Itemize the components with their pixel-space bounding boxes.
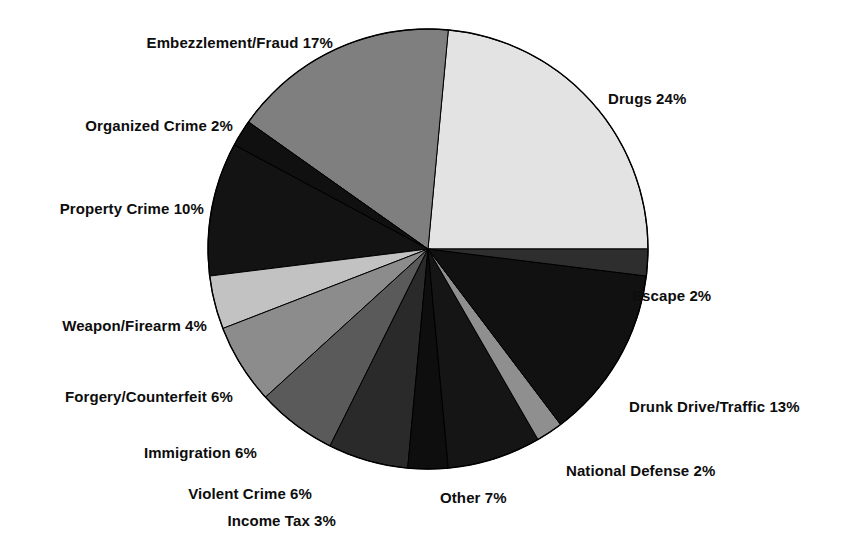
pie-label-weapon-firearm-4: Weapon/Firearm 4% <box>62 318 207 333</box>
pie-label-property-crime-10: Property Crime 10% <box>60 201 204 216</box>
pie-label-income-tax-3: Income Tax 3% <box>227 513 336 528</box>
pie-label-organized-crime-2: Organized Crime 2% <box>85 118 233 133</box>
pie-label-other-7: Other 7% <box>440 490 507 505</box>
pie-label-immigration-6: Immigration 6% <box>144 445 257 460</box>
pie-label-forgery-counterfeit-6: Forgery/Counterfeit 6% <box>65 389 233 404</box>
pie-label-embezzlement-fraud-17: Embezzlement/Fraud 17% <box>147 35 333 50</box>
pie-label-drugs-24: Drugs 24% <box>608 91 686 106</box>
pie-chart-canvas: Drugs 24%Embezzlement/Fraud 17%Organized… <box>0 0 857 553</box>
pie-label-violent-crime-6: Violent Crime 6% <box>188 486 312 501</box>
pie-label-drunk-drive-traffic-13: Drunk Drive/Traffic 13% <box>629 399 800 414</box>
pie-label-national-defense-2: National Defense 2% <box>566 463 715 478</box>
pie-chart-figure: Drugs 24%Embezzlement/Fraud 17%Organized… <box>0 0 857 553</box>
pie-slice-group: Drugs 24%Embezzlement/Fraud 17%Organized… <box>208 29 648 469</box>
pie-chart-svg: Drugs 24%Embezzlement/Fraud 17%Organized… <box>0 0 857 553</box>
pie-label-escape-2: Escape 2% <box>632 288 711 303</box>
pie-slice-drugs[interactable]: Drugs 24% <box>428 30 648 249</box>
